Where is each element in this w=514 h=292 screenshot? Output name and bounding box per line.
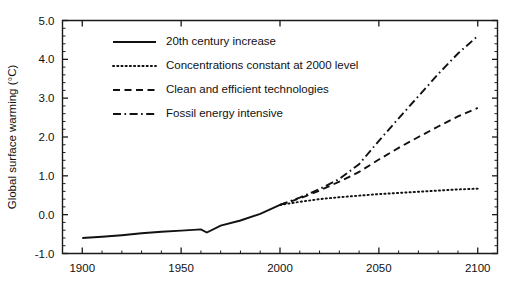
y-tick-label: 3.0 [39, 92, 55, 104]
y-axis-title: Global surface warming (°C) [6, 65, 18, 210]
x-tick-label: 1900 [69, 262, 95, 274]
x-tick-label: 2050 [366, 262, 392, 274]
y-tick-label: 5.0 [39, 15, 55, 27]
chart-container: -1.00.01.02.03.04.05.0 19001950200020502… [0, 0, 514, 292]
y-tick-label: -1.0 [35, 248, 55, 260]
legend-label: Concentrations constant at 2000 level [166, 59, 358, 71]
line-chart-figure: -1.00.01.02.03.04.05.0 19001950200020502… [0, 0, 514, 292]
y-tick-label: 1.0 [39, 170, 55, 182]
x-tick-label: 2100 [465, 262, 491, 274]
legend-label: Fossil energy intensive [166, 107, 283, 119]
y-tick-label: 2.0 [39, 131, 55, 143]
x-tick-label: 2000 [267, 262, 293, 274]
x-tick-label: 1950 [168, 262, 194, 274]
legend-label: 20th century increase [166, 35, 276, 47]
y-tick-label: 0.0 [39, 209, 55, 221]
legend-label: Clean and efficient technologies [166, 83, 329, 95]
y-tick-label: 4.0 [39, 53, 55, 65]
